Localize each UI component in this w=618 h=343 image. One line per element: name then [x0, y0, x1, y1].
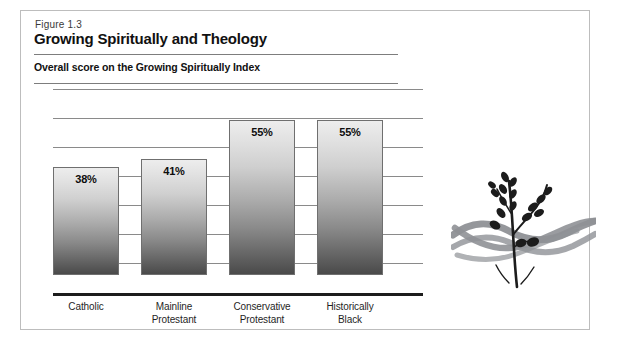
- x-tick-label-line: Black: [302, 313, 398, 326]
- x-tick-label-conservative-protestant: Conservative Protestant: [214, 300, 310, 326]
- x-tick-label-line: Mainline: [126, 300, 222, 313]
- x-tick-label-line: Conservative: [214, 300, 310, 313]
- figure-number: Figure 1.3: [35, 19, 82, 30]
- figure-subtitle: Overall score on the Growing Spiritually…: [34, 61, 260, 73]
- bar-historically-black[interactable]: 55%: [317, 120, 383, 275]
- bar-conservative-protestant[interactable]: 55%: [229, 120, 295, 275]
- bar-value-label: 55%: [230, 126, 294, 138]
- x-tick-label-catholic: Catholic: [38, 300, 134, 313]
- x-tick-label-line: Protestant: [214, 313, 310, 326]
- bar-value-label: 55%: [318, 126, 382, 138]
- bar-chart-plot-area: 38% 41% 55% 55% Catholic Mainline Protes…: [31, 81, 431, 306]
- bar-catholic[interactable]: 38%: [53, 167, 119, 275]
- header-rule-top: [34, 54, 398, 55]
- figure-frame: Figure 1.3 Growing Spiritually and Theol…: [20, 10, 590, 330]
- seedling-brush-illustration-icon: [451, 151, 596, 291]
- x-tick-label-line: Historically: [302, 300, 398, 313]
- x-tick-label-line: Catholic: [38, 300, 134, 313]
- bar-mainline-protestant[interactable]: 41%: [141, 159, 207, 275]
- figure-title: Growing Spiritually and Theology: [34, 30, 267, 47]
- x-axis-baseline: [53, 293, 423, 296]
- x-tick-label-line: Protestant: [126, 313, 222, 326]
- x-tick-label-mainline-protestant: Mainline Protestant: [126, 300, 222, 326]
- gridline-7: [53, 89, 423, 90]
- bar-value-label: 38%: [54, 173, 118, 185]
- x-tick-label-historically-black: Historically Black: [302, 300, 398, 326]
- bar-value-label: 41%: [142, 165, 206, 177]
- gridline-6: [53, 118, 423, 119]
